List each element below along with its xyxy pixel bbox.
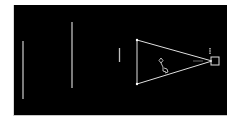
frustum-vertex-bottom[interactable]	[136, 83, 138, 85]
camera-frustum[interactable]	[137, 40, 212, 84]
frustum-vertex-top[interactable]	[136, 39, 138, 41]
scene-canvas[interactable]	[0, 0, 238, 116]
figure-glyph-icon[interactable]	[159, 58, 168, 73]
